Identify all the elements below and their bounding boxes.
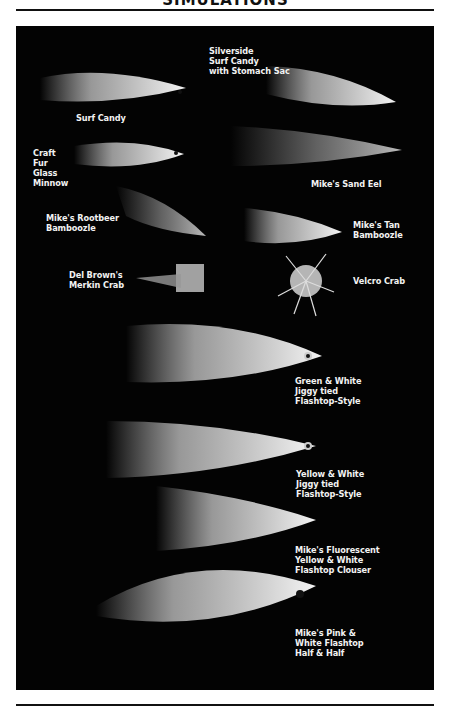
- label-silverside-surf-candy: Silverside Surf Candy with Stomach Sac: [209, 46, 290, 76]
- label-green-white-jiggy: Green & White Jiggy tied Flashtop-Style: [295, 376, 361, 406]
- label-surf-candy: Surf Candy: [76, 113, 126, 123]
- label-pink-white-half-and-half: Mike's Pink & White Flashtop Half & Half: [295, 628, 364, 658]
- top-rule: [16, 9, 434, 11]
- label-velcro-crab: Velcro Crab: [353, 276, 405, 286]
- label-del-browns-merkin-crab: Del Brown's Merkin Crab: [69, 270, 124, 290]
- label-mikes-sand-eel: Mike's Sand Eel: [311, 179, 381, 189]
- label-yellow-white-jiggy: Yellow & White Jiggy tied Flashtop-Style: [296, 469, 364, 499]
- label-mikes-tan-bamboozle: Mike's Tan Bamboozle: [353, 220, 403, 240]
- flies-illustration: [16, 26, 434, 690]
- label-fluorescent-yellow-white-clouser: Mike's Fluorescent Yellow & White Flasht…: [295, 545, 380, 575]
- page-title: SIMULATIONS: [0, 0, 451, 9]
- label-mikes-rootbeer-bamboozle: Mike's Rootbeer Bamboozle: [46, 213, 119, 233]
- label-craft-fur-glass-minnow: Craft Fur Glass Minnow: [33, 148, 68, 188]
- bottom-rule: [16, 704, 434, 706]
- fly-photo: Surf Candy Silverside Surf Candy with St…: [16, 26, 434, 690]
